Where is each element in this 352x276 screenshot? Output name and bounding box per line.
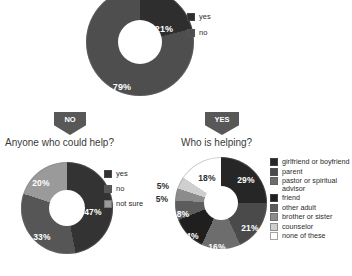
legend-swatch-icon [104,200,112,208]
right-donut-legend-item[interactable]: brother or sister [270,213,352,221]
right-donut-legend: girlfriend or boyfriendparentpastor or s… [270,158,352,242]
legend-label: counselor [282,223,313,231]
right-donut-legend-item[interactable]: other adult [270,204,352,212]
no-arrow-badge: NO [54,112,86,135]
donut-hole [49,190,85,226]
top-donut-slice-label-no: 79% [113,82,132,92]
legend-label: pastor or spiritual advisor [282,177,352,193]
legend-label: none of these [282,232,326,240]
right-donut-slice-label-girlfriend-or-boyfriend: 29% [237,175,255,185]
legend-label: parent [282,168,302,176]
right-donut-legend-item[interactable]: girlfriend or boyfriend [270,158,352,166]
left-donut-legend-item[interactable]: yes [104,170,143,178]
infographic-canvas: 21% 79% yesno NO Anyone who could help? … [0,0,352,276]
right-donut-legend-item[interactable]: counselor [270,223,352,231]
legend-swatch-icon [187,29,195,37]
right-donut-legend-item[interactable]: none of these [270,232,352,240]
right-donut-legend-item[interactable]: parent [270,168,352,176]
legend-label: no [116,185,124,193]
left-donut-slice-label-no: 33% [33,232,51,242]
right-donut-legend-item[interactable]: friend [270,194,352,202]
legend-swatch-icon [104,170,112,178]
left-donut-slice-label-yes: 47% [84,207,102,217]
right-donut-slice-label-brother-or-sister: 5% [156,194,169,204]
legend-swatch-icon [270,194,278,202]
right-donut-slice-label-pastor: 16% [208,242,226,252]
legend-swatch-icon [270,158,278,166]
donut-hole [204,186,238,220]
legend-label: brother or sister [282,213,332,221]
left-donut-slice-label-not-sure: 20% [32,178,50,188]
legend-label: yes [199,13,211,21]
right-donut-slice-label-friend: 14% [181,231,199,241]
top-donut-slice-label-yes: 21% [155,24,174,34]
right-donut-slice-label-counselor: 5% [157,181,170,191]
legend-label: friend [282,194,300,202]
right-donut-legend-item[interactable]: pastor or spiritual advisor [270,177,352,193]
legend-label: not sure [116,200,143,208]
top-donut-legend: yesno [187,13,211,45]
legend-label: yes [116,170,128,178]
legend-label: other adult [282,204,316,212]
left-donut-legend: yesnonot sure [104,170,143,215]
legend-swatch-icon [270,232,278,240]
right-donut-slice-label-parent: 21% [241,223,259,233]
yes-arrow-badge-label: YES [214,115,229,124]
right-donut-slice-label-other-adult: 8% [177,209,190,219]
legend-label: girlfriend or boyfriend [282,158,350,166]
left-section-heading: Anyone who could help? [5,137,114,148]
legend-swatch-icon [270,204,278,212]
legend-swatch-icon [187,13,195,21]
legend-swatch-icon [270,168,278,176]
right-donut-slice-label-none-of-these: 18% [198,173,216,183]
top-donut-legend-item[interactable]: no [187,29,211,37]
top-donut-legend-item[interactable]: yes [187,13,211,21]
legend-swatch-icon [270,177,278,185]
no-arrow-badge-label: NO [64,115,75,124]
legend-swatch-icon [270,223,278,231]
yes-arrow-badge: YES [205,112,239,135]
left-donut-legend-item[interactable]: no [104,185,143,193]
top-donut-chart [86,0,194,96]
legend-swatch-icon [270,213,278,221]
legend-swatch-icon [104,185,112,193]
legend-label: no [199,29,207,37]
left-donut-legend-item[interactable]: not sure [104,200,143,208]
right-section-heading: Who is helping? [181,137,252,148]
